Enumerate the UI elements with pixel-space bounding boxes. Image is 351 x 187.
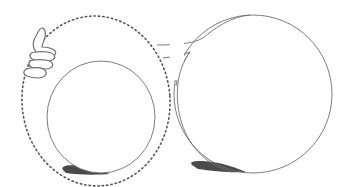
thumbs-up-hand-icon (24, 28, 56, 78)
drawing-canvas (0, 0, 351, 187)
large-circle-mask (170, 40, 184, 80)
illustration (0, 0, 351, 187)
large-circle (174, 15, 332, 173)
large-circle-left-edge (177, 52, 232, 172)
inner-circle (47, 61, 155, 173)
shadow-right (191, 161, 246, 172)
